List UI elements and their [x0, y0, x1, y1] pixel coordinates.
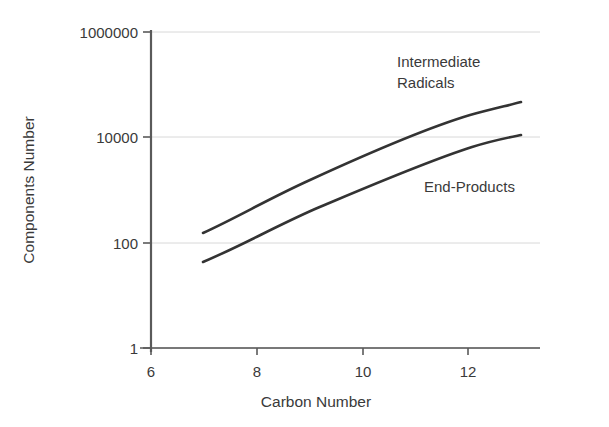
y-tick-label-100: 100: [113, 235, 138, 252]
series-line-intermediate-radicals: [203, 102, 521, 233]
end-products-label: End-Products: [424, 178, 515, 195]
intermediate-radicals-label-line2: Radicals: [397, 74, 455, 91]
x-axis-title: Carbon Number: [261, 393, 371, 410]
x-tick-label-6: 6: [147, 363, 155, 380]
chart-figure: 1000000 10000 100 1 6 8 10 12 Carbon Num…: [0, 0, 609, 427]
intermediate-radicals-label-line1: Intermediate: [397, 53, 480, 70]
y-tick-label-10000: 10000: [96, 129, 138, 146]
y-tick-label-1: 1: [130, 340, 138, 357]
y-tick-label-1000000: 1000000: [80, 24, 138, 41]
x-tick-label-10: 10: [355, 363, 372, 380]
y-axis-title: Components Number: [20, 116, 37, 263]
x-tick-label-8: 8: [253, 363, 261, 380]
x-tick-label-12: 12: [460, 363, 477, 380]
chart-canvas: 1000000 10000 100 1 6 8 10 12 Carbon Num…: [0, 0, 609, 427]
